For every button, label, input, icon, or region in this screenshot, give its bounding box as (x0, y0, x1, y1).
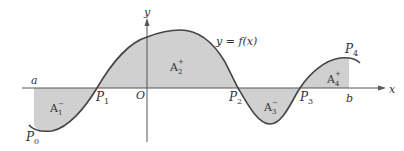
bound-a-label: a (31, 74, 38, 87)
svg-text:+: + (335, 70, 341, 78)
svg-text:1: 1 (104, 97, 109, 106)
svg-text:0: 0 (34, 137, 39, 146)
area-under-curve-diagram: y x O a b y = f(x) P 0 P 1 P 2 P 3 P 4 A… (0, 0, 404, 151)
point-p3: P 3 (299, 90, 313, 106)
point-p4: P 4 (344, 42, 358, 58)
svg-text:1: 1 (58, 109, 62, 117)
svg-text:3: 3 (272, 108, 276, 116)
y-axis-label: y (143, 6, 151, 19)
area-a4 (300, 58, 349, 88)
x-axis-arrow-icon (378, 86, 386, 91)
area-label-a3: A 3 − (263, 99, 278, 116)
svg-text:2: 2 (237, 97, 242, 106)
curve-label: y = f(x) (215, 35, 257, 48)
svg-text:−: − (58, 100, 64, 108)
origin-label: O (136, 89, 145, 102)
svg-text:2: 2 (178, 68, 182, 76)
svg-text:+: + (178, 58, 184, 66)
svg-text:−: − (272, 99, 278, 107)
x-axis-label: x (389, 83, 396, 96)
svg-text:3: 3 (308, 97, 313, 106)
svg-text:4: 4 (335, 80, 340, 88)
shaded-areas (34, 30, 349, 131)
y-axis-arrow-icon (145, 18, 150, 26)
svg-text:4: 4 (353, 49, 358, 58)
point-p0: P 0 (25, 130, 39, 146)
point-p1: P 1 (95, 90, 109, 106)
bound-b-label: b (346, 92, 353, 105)
area-label-a1: A 1 − (49, 100, 64, 117)
